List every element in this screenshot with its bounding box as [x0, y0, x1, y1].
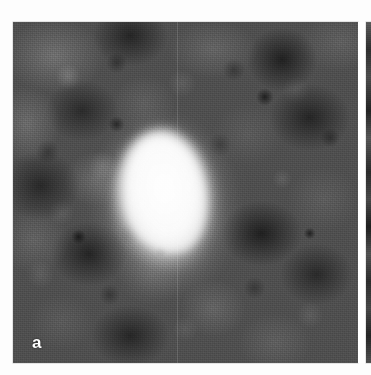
tissue-texture-grain-b: [366, 22, 371, 363]
figure-panel-a[interactable]: a: [13, 22, 358, 363]
figure-root: a: [0, 0, 371, 375]
acquisition-seam-line: [177, 22, 178, 363]
tissue-texture-grain: [13, 22, 358, 363]
panel-label-a: a: [32, 334, 41, 351]
figure-panel-b[interactable]: [366, 22, 371, 363]
panel-gutter: [358, 22, 366, 363]
